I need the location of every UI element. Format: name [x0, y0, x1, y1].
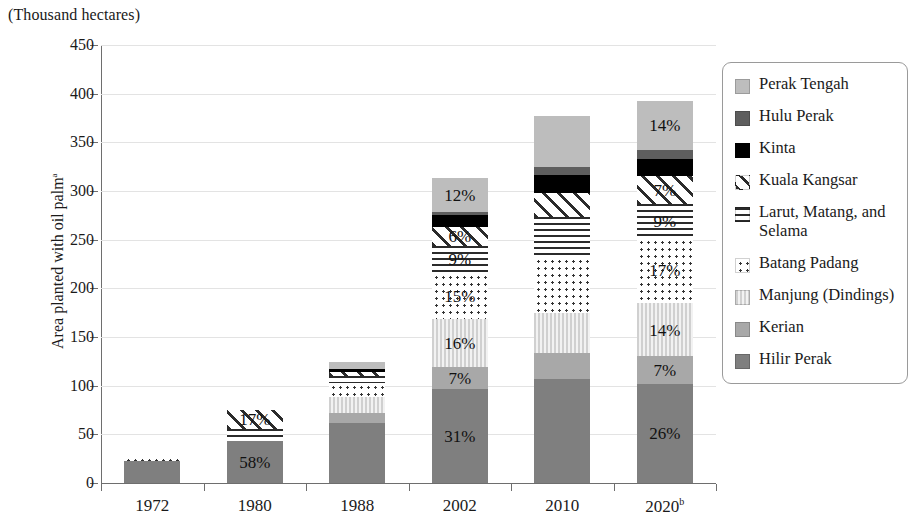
y-axis-tick-label: 200 [70, 279, 94, 297]
bar-segment[interactable] [329, 372, 385, 376]
x-axis-tick [306, 484, 307, 491]
bar-segment[interactable]: 14% [637, 101, 693, 151]
bar-segment[interactable]: 16% [432, 319, 488, 368]
bar-segment[interactable]: 7% [637, 176, 693, 203]
y-axis-tick-label: 450 [70, 36, 94, 54]
bar-segment[interactable] [124, 456, 180, 461]
bar-segment[interactable]: 58% [227, 441, 283, 483]
bar-segment[interactable] [534, 217, 590, 257]
legend-item[interactable]: Kuala Kangsar [735, 171, 897, 190]
gridline [101, 191, 716, 192]
bar-segment[interactable]: 31% [432, 389, 488, 483]
legend-swatch-icon [735, 79, 750, 94]
bar-segment[interactable] [534, 257, 590, 312]
legend: Perak TengahHulu PerakKintaKuala Kangsar… [722, 62, 908, 384]
bar-segment-label: 16% [432, 334, 488, 351]
chart-units-title: (Thousand hectares) [8, 6, 140, 24]
bar-segment[interactable] [637, 150, 693, 159]
bar-segment[interactable] [124, 461, 180, 483]
bar-segment-label: 7% [432, 369, 488, 386]
bar-segment[interactable]: 7% [432, 367, 488, 388]
legend-item[interactable]: Kerian [735, 318, 897, 337]
legend-item[interactable]: Manjung (Dindings) [735, 286, 897, 305]
gridline [101, 94, 716, 95]
gridline [101, 434, 716, 435]
legend-item-label: Manjung (Dindings) [759, 286, 894, 305]
bar-segment[interactable]: 17% [637, 238, 693, 303]
legend-item[interactable]: Kinta [735, 139, 897, 158]
bar-segment[interactable] [534, 313, 590, 353]
bar-1980[interactable]: 58%17% [227, 410, 283, 483]
y-axis-title-text: Area planted with oil palm [49, 177, 66, 349]
bar-segment[interactable] [329, 362, 385, 369]
legend-swatch-icon [735, 322, 750, 337]
bar-segment[interactable]: 7% [637, 356, 693, 383]
y-axis-tick-label: 350 [70, 133, 94, 151]
bar-segment-label: 7% [637, 362, 693, 379]
x-axis-tick [614, 484, 615, 491]
bar-segment[interactable] [534, 175, 590, 193]
legend-item-label: Hulu Perak [759, 107, 834, 126]
legend-item[interactable]: Hulu Perak [735, 107, 897, 126]
bar-segment[interactable] [329, 369, 385, 372]
bar-segment[interactable] [637, 159, 693, 177]
bar-segment[interactable] [534, 116, 590, 167]
bar-segment[interactable] [432, 215, 488, 227]
y-axis-tick-label: 300 [70, 182, 94, 200]
bar-segment[interactable] [329, 423, 385, 483]
legend-item-label: Perak Tengah [759, 75, 849, 94]
bar-1988[interactable] [329, 362, 385, 483]
legend-item-label: Kuala Kangsar [759, 171, 858, 190]
bar-segment-label: 12% [432, 187, 488, 204]
y-axis-title-superscript: a [49, 173, 59, 177]
y-axis-tick-label: 0 [86, 474, 94, 492]
bar-2002[interactable]: 31%7%16%15%9%6%12% [432, 178, 488, 483]
legend-item[interactable]: Perak Tengah [735, 75, 897, 94]
bar-segment[interactable] [329, 413, 385, 423]
legend-item-label: Batang Padang [759, 254, 858, 273]
bar-segment[interactable]: 12% [432, 178, 488, 212]
legend-swatch-icon [735, 111, 750, 126]
x-axis-tick [511, 484, 512, 491]
legend-swatch-icon [735, 290, 750, 305]
y-axis-tick-label: 150 [70, 328, 94, 346]
bar-segment[interactable] [534, 193, 590, 217]
bar-segment[interactable]: 9% [637, 204, 693, 238]
legend-swatch-icon [735, 175, 750, 190]
bar-segment[interactable] [534, 167, 590, 176]
bar-segment[interactable] [329, 383, 385, 398]
x-axis-tick-label: 2010 [545, 496, 579, 516]
bar-segment[interactable] [329, 376, 385, 383]
bar-segment[interactable]: 26% [637, 384, 693, 483]
bar-segment[interactable] [329, 397, 385, 413]
bar-segment-label: 17% [637, 262, 693, 279]
bar-segment[interactable] [227, 429, 283, 441]
bar-segment[interactable] [432, 212, 488, 215]
legend-item[interactable]: Larut, Matang, and Selama [735, 203, 897, 241]
gridline [101, 337, 716, 338]
x-axis-tick [204, 484, 205, 491]
bar-1972[interactable] [124, 456, 180, 483]
bar-segment[interactable]: 17% [227, 410, 283, 428]
x-axis-tick-label: 2020b [645, 496, 684, 517]
x-axis-tick-label-superscript: b [679, 496, 684, 507]
y-axis-tick-label: 50 [78, 425, 94, 443]
bar-segment[interactable] [534, 353, 590, 379]
legend-item[interactable]: Hilir Perak [735, 350, 897, 369]
bar-segment[interactable]: 9% [432, 246, 488, 273]
legend-item-label: Kinta [759, 139, 796, 158]
legend-swatch-icon [735, 354, 750, 369]
bar-segment-label: 6% [432, 228, 488, 245]
bar-segment[interactable]: 6% [432, 227, 488, 245]
bar-2020[interactable]: 26%7%14%17%9%7%14% [637, 100, 693, 483]
bar-segment-label: 14% [637, 117, 693, 134]
y-axis-line [101, 45, 102, 484]
bar-segment[interactable]: 15% [432, 273, 488, 319]
legend-item[interactable]: Batang Padang [735, 254, 897, 273]
bar-2010[interactable] [534, 116, 590, 483]
legend-swatch-icon [735, 207, 750, 222]
bar-segment[interactable]: 14% [637, 303, 693, 357]
x-axis-tick-label: 1972 [135, 496, 169, 516]
bar-segment[interactable] [534, 379, 590, 483]
y-axis-title: Area planted with oil palma [49, 111, 67, 411]
